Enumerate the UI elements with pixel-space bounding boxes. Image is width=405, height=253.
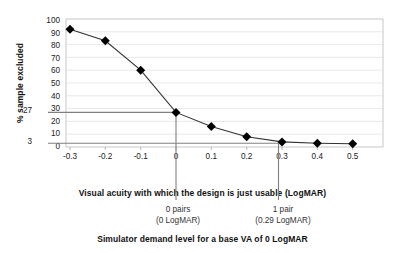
- chart-figure: % sample excluded 100 90 80 70 60 50 40 …: [0, 0, 405, 253]
- x-tick-marks: [70, 147, 353, 150]
- chart-plot: [0, 0, 405, 253]
- reference-line-one-pair: [48, 143, 279, 200]
